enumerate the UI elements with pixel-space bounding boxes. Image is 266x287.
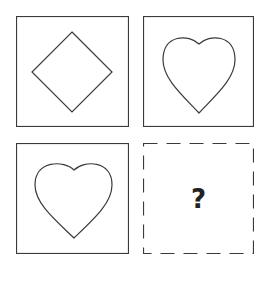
cell-bottom-right-answer[interactable]: ? <box>143 143 254 254</box>
heart-icon <box>16 143 129 254</box>
cell-bottom-left <box>16 143 129 254</box>
question-mark: ? <box>143 143 254 254</box>
cell-top-right <box>143 16 254 127</box>
diamond-icon <box>16 16 129 127</box>
cell-top-left <box>16 16 129 127</box>
heart-icon <box>143 16 254 127</box>
